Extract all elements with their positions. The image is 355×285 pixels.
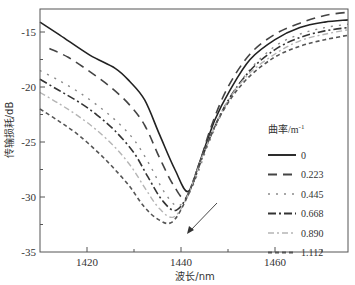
y-tick-label: -15 [21, 26, 36, 38]
y-tick-label: -30 [21, 191, 36, 203]
y-axis-title: 传输损耗/dB [3, 102, 15, 159]
series-line-0 [40, 20, 348, 192]
y-axis: -15 -20 -25 -30 -35 [21, 26, 45, 258]
x-tick-label: 1420 [76, 256, 99, 268]
legend-label: 0 [301, 150, 306, 161]
y-tick-label: -35 [21, 246, 36, 258]
y-tick-label: -20 [21, 81, 36, 93]
legend-label: 0.445 [301, 189, 324, 200]
x-axis-title: 波长/nm [175, 270, 214, 282]
legend-label: 0.668 [301, 208, 324, 219]
line-chart: -15 -20 -25 -30 -35 1420 1440 1460 波长/nm… [0, 0, 355, 285]
y-tick-label: -25 [21, 136, 36, 148]
legend-title: 曲率/m-1 [268, 123, 305, 135]
x-axis: 1420 1440 1460 [76, 247, 322, 268]
legend-label: 0.890 [301, 228, 324, 239]
legend: 曲率/m-1 00.2230.4450.6680.8901.112 [268, 123, 324, 258]
x-tick-label: 1460 [264, 256, 287, 268]
legend-label: 0.223 [301, 169, 324, 180]
series-line-0-668 [40, 28, 348, 211]
x-tick-label: 1440 [170, 256, 193, 268]
legend-label: 1.112 [301, 247, 323, 258]
trend-arrow [187, 203, 217, 234]
